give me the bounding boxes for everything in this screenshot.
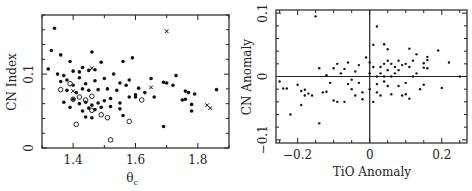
data-point <box>68 60 72 64</box>
data-point <box>383 63 385 65</box>
data-point <box>131 56 135 60</box>
data-point <box>387 85 389 87</box>
data-point <box>379 94 381 96</box>
data-point <box>387 59 389 61</box>
data-point <box>215 88 219 92</box>
data-point-cross <box>71 89 75 93</box>
data-point-cross <box>209 106 213 110</box>
x-tick-label: 0 <box>366 148 374 162</box>
data-point <box>441 87 443 89</box>
data-point <box>143 91 147 95</box>
y-tick-label: 0.1 <box>256 4 270 23</box>
data-point <box>401 94 403 96</box>
data-point <box>84 115 88 119</box>
data-point <box>408 66 410 68</box>
data-point <box>87 69 91 73</box>
data-point <box>372 66 374 68</box>
data-point <box>379 66 381 68</box>
data-point <box>368 88 370 90</box>
data-point <box>96 101 100 105</box>
data-point <box>437 49 439 51</box>
data-point <box>78 70 82 74</box>
data-point <box>332 67 334 69</box>
data-point <box>383 43 385 45</box>
data-point <box>387 48 389 50</box>
data-point <box>372 101 374 103</box>
data-point <box>78 102 82 106</box>
data-point <box>193 92 197 96</box>
x-tick-label: 1.8 <box>188 153 207 167</box>
data-point-open <box>105 115 110 120</box>
left-scatter-plot: 1.41.61.800.1 <box>22 15 229 167</box>
data-point <box>93 79 97 83</box>
data-point <box>106 87 110 91</box>
x-tick-label: 1.6 <box>126 153 145 167</box>
data-point <box>103 99 107 103</box>
data-point <box>426 56 428 58</box>
data-point <box>53 27 57 31</box>
data-point <box>59 53 63 57</box>
data-point <box>343 101 345 103</box>
data-point <box>350 78 352 80</box>
data-point <box>405 82 407 84</box>
data-point-cross <box>90 66 94 70</box>
data-point <box>90 50 94 54</box>
x-tick-label: 1.4 <box>64 153 83 167</box>
data-point <box>78 76 82 80</box>
data-point <box>415 53 417 55</box>
data-point <box>408 47 410 49</box>
data-point <box>190 103 194 107</box>
data-point <box>187 91 191 95</box>
data-point <box>415 72 417 74</box>
data-point <box>99 60 103 64</box>
data-point-open <box>77 95 82 100</box>
left-x-axis-label: θc <box>126 171 138 187</box>
data-point-open <box>99 112 104 117</box>
data-point <box>304 94 306 96</box>
x-tick-label: 0.2 <box>432 148 451 162</box>
data-point <box>343 68 345 70</box>
data-point <box>361 91 363 93</box>
right-y-axis-label: CN Anomaly <box>240 39 254 115</box>
right-x-axis-label: TiO Anomaly <box>333 165 411 179</box>
data-point-open <box>90 94 95 99</box>
data-point <box>121 60 125 64</box>
data-point <box>162 125 166 129</box>
data-point <box>118 81 122 85</box>
data-point <box>180 98 184 102</box>
data-point <box>296 84 298 86</box>
data-point <box>90 116 94 120</box>
data-point <box>419 88 421 90</box>
data-point <box>325 91 327 93</box>
data-point <box>103 77 107 81</box>
data-point <box>171 83 175 87</box>
data-point <box>174 74 178 78</box>
data-point <box>307 92 309 94</box>
data-point <box>149 77 153 81</box>
data-point <box>322 91 324 93</box>
data-point <box>50 49 54 53</box>
y-tick-label: 0 <box>22 144 36 152</box>
data-point <box>347 83 349 85</box>
y-tick-label: 0.1 <box>22 65 36 84</box>
data-point-open <box>127 119 132 124</box>
data-point <box>90 103 94 107</box>
data-point <box>376 91 378 93</box>
data-point <box>379 72 381 74</box>
data-point <box>127 95 131 99</box>
data-point <box>62 100 66 104</box>
data-point <box>397 59 399 61</box>
left-y-axis-label: CN Index <box>5 53 19 111</box>
data-point <box>109 97 113 101</box>
data-point <box>340 72 342 74</box>
data-point <box>124 83 128 87</box>
data-point <box>383 75 385 77</box>
data-point-open <box>58 87 63 92</box>
data-point <box>336 63 338 65</box>
data-point <box>81 109 85 113</box>
data-point <box>387 69 389 71</box>
data-point <box>423 66 425 68</box>
data-point <box>336 101 338 103</box>
data-point <box>289 113 291 115</box>
data-point <box>81 66 85 70</box>
